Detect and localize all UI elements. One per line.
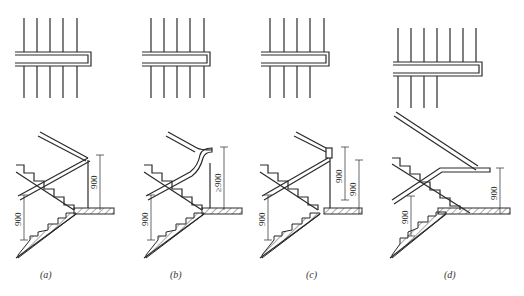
section-view-b: ≥900 900 bbox=[140, 132, 242, 258]
section-view-c: 900 900 900 bbox=[257, 132, 363, 258]
dim-label: 900 bbox=[400, 210, 410, 224]
dim-label: 900 bbox=[489, 186, 499, 200]
plan-view-a bbox=[15, 18, 91, 98]
panel-a: 900 900 (a) bbox=[13, 18, 114, 281]
dim-label: ≥900 bbox=[213, 173, 223, 192]
panel-d: 900 900 (d) bbox=[390, 28, 510, 281]
plan-view-d bbox=[393, 28, 482, 108]
dim-label: 900 bbox=[89, 175, 99, 189]
plan-view-b bbox=[142, 18, 210, 98]
section-view-a: 900 900 bbox=[13, 132, 114, 258]
dim-label: 900 bbox=[13, 212, 23, 226]
stair-handrail-diagram: 900 900 (a) bbox=[0, 0, 524, 296]
caption-b: (b) bbox=[170, 269, 182, 281]
caption-a: (a) bbox=[40, 269, 52, 281]
plan-view-c bbox=[261, 18, 329, 98]
section-view-d: 900 900 bbox=[390, 112, 510, 258]
panel-c: 900 900 900 (c) bbox=[257, 18, 363, 281]
dim-label: 900 bbox=[140, 212, 150, 226]
caption-d: (d) bbox=[444, 269, 456, 281]
dim-label: 900 bbox=[334, 169, 344, 183]
dim-label: 900 bbox=[257, 212, 267, 226]
caption-c: (c) bbox=[306, 269, 318, 281]
panel-b: ≥900 900 (b) bbox=[140, 18, 242, 281]
dim-label: 900 bbox=[348, 182, 358, 196]
